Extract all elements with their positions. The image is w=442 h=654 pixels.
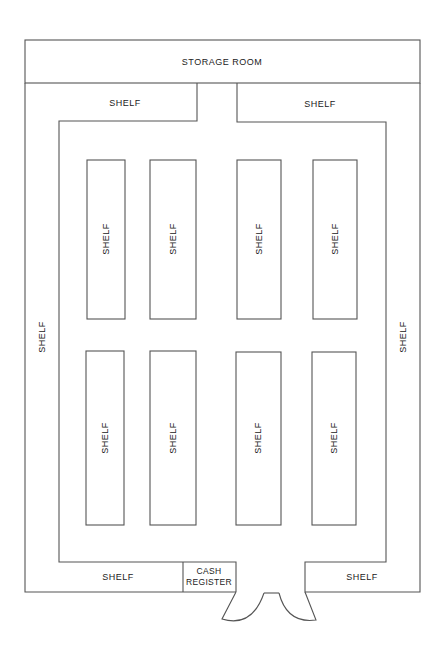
aisle-shelf-upper-3-label: SHELF xyxy=(254,223,264,255)
aisle-shelf-upper-4-label: SHELF xyxy=(330,223,340,255)
right-door-icon xyxy=(279,592,316,620)
aisle-shelf-lower-3-label: SHELF xyxy=(253,422,263,454)
cash-register-label-line1: CASH xyxy=(197,566,222,576)
left-door-icon xyxy=(222,592,264,621)
shelf-bottom-left-label: SHELF xyxy=(102,572,134,582)
shelf-bottom-right-label: SHELF xyxy=(346,572,378,582)
shelf-top-left-label: SHELF xyxy=(109,98,141,108)
shelf-top-right-label: SHELF xyxy=(304,99,336,109)
aisle-shelf-lower-1-label: SHELF xyxy=(100,422,110,454)
aisle-shelf-upper-1-label: SHELF xyxy=(101,223,111,255)
cash-register-label-line2: REGISTER xyxy=(186,577,232,587)
aisle-shelf-upper-2-label: SHELF xyxy=(168,223,178,255)
entrance xyxy=(222,592,316,621)
storage-room-label: STORAGE ROOM xyxy=(182,57,262,67)
aisle-shelf-lower-4-label: SHELF xyxy=(329,422,339,454)
aisle-shelf-lower-2-label: SHELF xyxy=(168,422,178,454)
shelf-left-label: SHELF xyxy=(37,321,47,353)
left-outer-wall xyxy=(25,83,236,592)
right-shelf-outline xyxy=(237,83,420,592)
floor-plan: STORAGE ROOM SHELF SHELF SHELF SHELF SHE… xyxy=(0,0,442,654)
shelf-right-label: SHELF xyxy=(398,321,408,353)
